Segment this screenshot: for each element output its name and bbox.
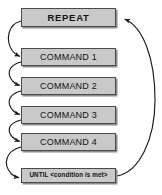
node-repeat[interactable]: REPEAT xyxy=(21,8,116,27)
connector-command2-to-command3 xyxy=(9,91,21,114)
flowchart-canvas: REPEAT COMMAND 1 COMMAND 2 COMMAND 3 COM… xyxy=(0,0,162,195)
node-command-3[interactable]: COMMAND 3 xyxy=(21,106,116,124)
node-until-condition[interactable]: UNTIL <condition is met> xyxy=(21,168,116,183)
connector-command3-to-command4 xyxy=(9,120,21,141)
connector-command1-to-command2 xyxy=(9,62,21,85)
flow-connectors xyxy=(0,0,162,195)
node-command-2[interactable]: COMMAND 2 xyxy=(21,77,116,95)
connector-command4-to-until xyxy=(6,147,21,178)
node-command-1[interactable]: COMMAND 1 xyxy=(21,48,116,66)
connector-until-to-repeat xyxy=(117,19,155,176)
node-command-4[interactable]: COMMAND 4 xyxy=(21,133,116,151)
connector-repeat-to-command1 xyxy=(8,21,21,56)
